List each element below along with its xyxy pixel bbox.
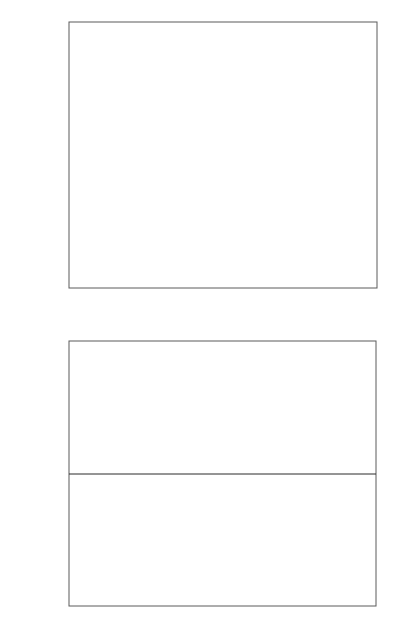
frequency-chart (0, 0, 377, 288)
displacement-chart (69, 341, 376, 606)
frequency-plot-frame (69, 22, 377, 288)
figure (0, 0, 393, 625)
